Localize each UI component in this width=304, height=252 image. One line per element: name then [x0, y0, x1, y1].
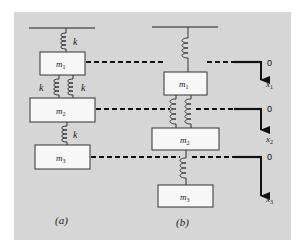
caption-b: (b) [176, 216, 189, 229]
spring-mass-diagram: k m1 k k m2 k m3 (a) [0, 0, 304, 252]
zero-label-3: 0 [267, 152, 272, 162]
mass-m2-a [30, 98, 95, 122]
spring-label-k-mid-left: k [39, 82, 44, 93]
zero-label-1: 0 [267, 58, 272, 68]
zero-label-2: 0 [267, 104, 272, 114]
caption-a: (a) [55, 214, 68, 227]
mass-m3-a [35, 145, 90, 169]
figure-panel [14, 12, 291, 240]
spring-label-k-mid-right: k [81, 82, 86, 93]
spring-label-k-bottom: k [73, 129, 78, 140]
spring-label-k-top: k [73, 36, 78, 47]
